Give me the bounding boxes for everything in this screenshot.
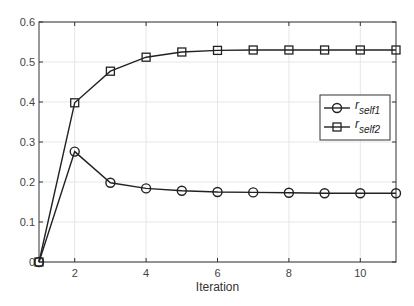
y-tick-label: 0.3 [20,136,35,148]
legend: rself1rself2 [320,95,390,140]
x-tick-label: 8 [286,267,292,279]
y-tick-label: 0.1 [20,216,35,228]
line-chart: 00.10.20.30.40.50.6 246810 Iteration rse… [0,0,414,306]
y-tick-label: 0.4 [20,96,35,108]
y-tick-label: 0.6 [20,16,35,28]
grid-lines [39,22,396,262]
x-axis-ticks: 246810 [72,22,367,279]
y-tick-label: 0.2 [20,176,35,188]
x-tick-label: 10 [354,267,366,279]
x-axis-label: Iteration [196,280,239,294]
x-tick-label: 6 [214,267,220,279]
x-tick-label: 4 [143,267,149,279]
y-tick-label: 0.5 [20,56,35,68]
x-tick-label: 2 [72,267,78,279]
